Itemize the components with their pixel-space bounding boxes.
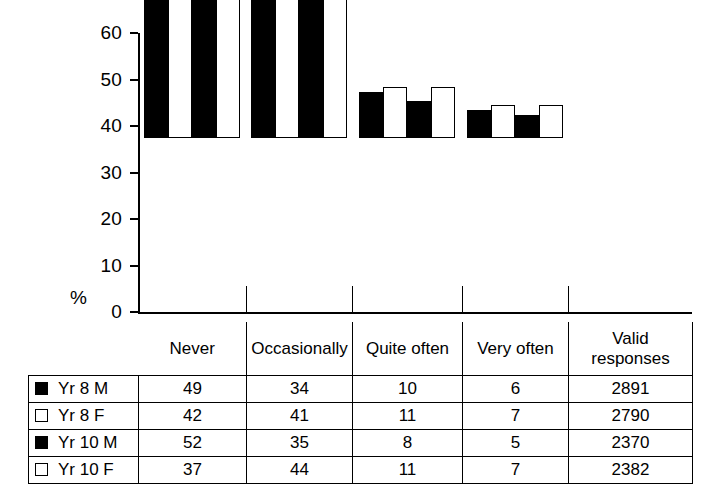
table-header-corner [29,322,139,376]
valid-responses-line2: responses [591,349,669,368]
bar-yr-8-m-very-often [467,110,491,138]
cell-never: 42 [139,403,247,430]
bar-yr-10-f-occasionally [323,0,347,138]
cell-valid-responses: 2891 [569,376,693,403]
bars-layer [0,0,724,322]
table-header-row: Never Occasionally Quite often Very ofte… [29,322,693,376]
cell-occasionally: 41 [247,403,353,430]
bar-yr-10-m-occasionally [299,0,323,138]
cell-very-often: 7 [463,403,569,430]
cell-quite-often: 11 [353,403,463,430]
cell-quite-often: 10 [353,376,463,403]
cell-valid-responses: 2790 [569,403,693,430]
bar-chart-figure: 6050403020100 % Never Occasionally Quite… [0,0,724,496]
hollow-square-icon [35,409,48,422]
bar-yr-8-m-quite-often [359,92,383,139]
series-label: Yr 8 F [58,406,104,426]
table-row: Yr 10 F37441172382 [29,457,693,484]
cell-quite-often: 8 [353,430,463,457]
bar-yr-8-f-never [168,0,192,138]
data-table: Never Occasionally Quite often Very ofte… [28,322,693,484]
legend-cell: Yr 8 F [29,403,139,430]
bar-yr-10-f-never [216,0,240,138]
cell-never: 37 [139,457,247,484]
cell-occasionally: 35 [247,430,353,457]
bar-yr-10-m-very-often [515,115,539,138]
table-header-occasionally: Occasionally [247,322,353,376]
bar-yr-8-m-never [144,0,168,138]
bar-yr-8-m-occasionally [251,0,275,138]
cell-very-often: 6 [463,376,569,403]
bar-yr-10-m-never [192,0,216,138]
hollow-square-icon [35,463,48,476]
cell-very-often: 7 [463,457,569,484]
table-row: Yr 8 F42411172790 [29,403,693,430]
bar-yr-10-m-quite-often [407,101,431,138]
bar-yr-8-f-occasionally [275,0,299,138]
cell-occasionally: 44 [247,457,353,484]
cell-never: 49 [139,376,247,403]
legend-cell: Yr 10 F [29,457,139,484]
series-label: Yr 8 M [58,379,108,399]
filled-square-icon [35,382,48,395]
table-header-never: Never [139,322,247,376]
cell-occasionally: 34 [247,376,353,403]
bar-yr-10-f-very-often [539,105,563,138]
table-header-very-often: Very often [463,322,569,376]
bar-yr-8-f-quite-often [383,87,407,138]
filled-square-icon [35,436,48,449]
series-label: Yr 10 F [58,460,114,480]
table-header-quite-often: Quite often [353,322,463,376]
series-label: Yr 10 M [58,433,118,453]
table-row: Yr 8 M49341062891 [29,376,693,403]
cell-quite-often: 11 [353,457,463,484]
cell-valid-responses: 2370 [569,430,693,457]
table-row: Yr 10 M5235852370 [29,430,693,457]
cell-never: 52 [139,430,247,457]
legend-cell: Yr 10 M [29,430,139,457]
bar-yr-10-f-quite-often [431,87,455,138]
bar-yr-8-f-very-often [491,105,515,138]
table-header-valid-responses: Valid responses [569,322,693,376]
legend-cell: Yr 8 M [29,376,139,403]
plot-area: 6050403020100 % [0,0,724,322]
valid-responses-line1: Valid [612,329,649,348]
cell-valid-responses: 2382 [569,457,693,484]
cell-very-often: 5 [463,430,569,457]
